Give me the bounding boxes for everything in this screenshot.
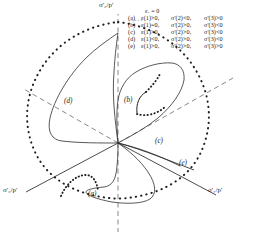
legend-row-c: (c)ε(1)>0,σ'(2)>0,σ'(3)<0 <box>128 29 223 36</box>
legend-header: εᵥ = 0 <box>128 8 223 15</box>
axis-label-sigma2: σ'₂/p' <box>99 1 113 9</box>
legend-marker-dots: ····· <box>128 18 144 25</box>
legend-d-c2: σ'(2)>0, <box>171 36 204 43</box>
legend-c-c1: ε(1)>0, <box>141 29 171 36</box>
legend-tag-d: (d) <box>128 36 141 43</box>
path-b-dotted <box>137 74 166 115</box>
radial-ray-extra <box>118 143 180 166</box>
legend-a-c1: ε(1)>0, <box>141 15 171 22</box>
curve-label-a: (a) <box>88 190 96 198</box>
legend-d-c1: ε(1)<0, <box>141 36 171 43</box>
legend-d-c3: σ'(3)<0 <box>204 36 223 43</box>
path-b-curve <box>137 92 146 113</box>
legend-row-d: (d)ε(1)<0,σ'(2)>0,σ'(3)<0 <box>128 36 223 43</box>
curve-label-c: (c) <box>155 137 163 145</box>
curve-label-b: (b) <box>124 96 132 104</box>
curve-label-d: (d) <box>64 97 72 105</box>
legend-c-c2: σ'(2)>0, <box>171 29 204 36</box>
yield-surface-curve <box>49 33 184 203</box>
legend-tag-e: (e) <box>128 43 141 50</box>
legend-b-c3: σ'(3)<0 <box>204 22 223 29</box>
legend-a-c3: σ'(3)>0 <box>204 15 223 22</box>
legend-c-c3: σ'(3)<0 <box>204 29 223 36</box>
legend-e-c1: ε(1)>0, <box>141 43 171 50</box>
legend-b-c2: σ'(2)>0, <box>171 22 204 29</box>
legend-row-e: (e)ε(1)>0,σ'(2)>0,σ'(3)>0 <box>128 43 223 50</box>
curve-label-e: (e) <box>179 159 187 167</box>
axis-label-sigma1: σ'₁/p' <box>208 186 222 194</box>
legend-b-c1: ε(1)=0, <box>141 22 171 29</box>
radial-axis-group <box>26 143 216 195</box>
legend-e-c2: σ'(2)>0, <box>171 43 204 50</box>
legend: ····· εᵥ = 0 (a)ε(1)>0,σ'(2)<0,σ'(3)>0 (… <box>128 8 223 50</box>
axis-sigma3 <box>26 143 118 192</box>
legend-a-c2: σ'(2)<0, <box>171 15 204 22</box>
legend-e-c3: σ'(3)>0 <box>204 43 223 50</box>
legend-tag-c: (c) <box>128 29 141 36</box>
axis-label-sigma3: σ'₃/p' <box>3 186 17 194</box>
